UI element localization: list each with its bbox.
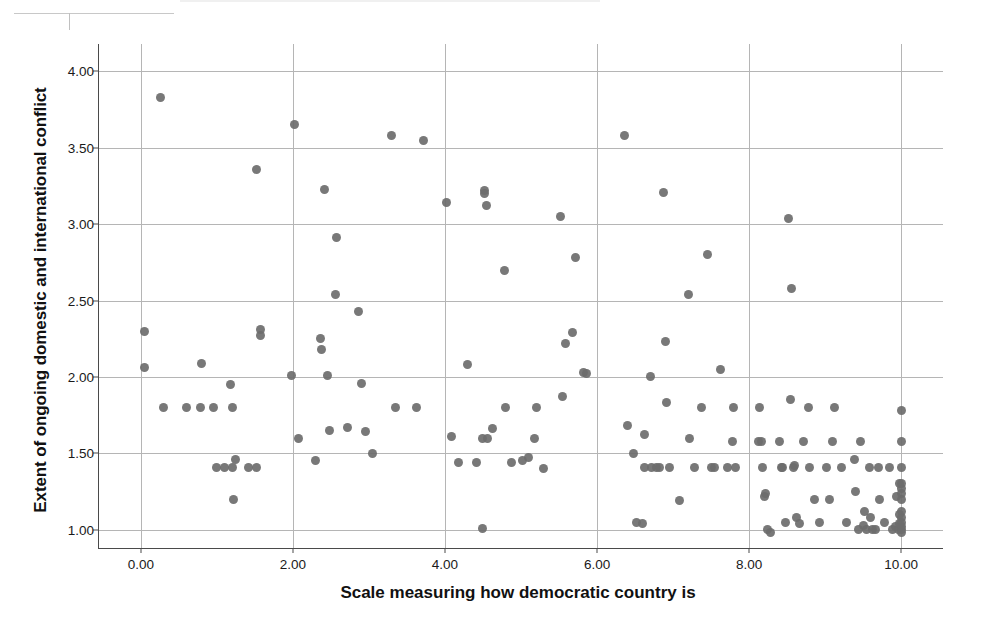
data-point: [209, 403, 218, 412]
x-axis-tick-mark: [749, 548, 750, 553]
data-point: [561, 339, 570, 348]
data-point: [556, 212, 565, 221]
data-point: [343, 423, 352, 432]
scan-artifact-vertical-line: [69, 13, 70, 30]
data-point: [761, 489, 770, 498]
data-point: [256, 331, 265, 340]
data-point: [662, 398, 671, 407]
data-point: [482, 201, 491, 210]
data-point: [880, 518, 889, 527]
gridline-horizontal: [99, 301, 943, 302]
scan-artifact-top-edge: [180, 0, 600, 2]
data-point: [875, 495, 884, 504]
data-point: [294, 434, 303, 443]
data-point: [447, 432, 456, 441]
data-point: [684, 290, 693, 299]
scan-artifact-horizontal-line: [14, 13, 174, 14]
gridline-vertical: [445, 44, 446, 548]
data-point: [354, 307, 363, 316]
gridline-vertical: [749, 44, 750, 548]
data-point: [897, 437, 906, 446]
data-point: [316, 334, 325, 343]
data-point: [805, 463, 814, 472]
data-point: [507, 458, 516, 467]
data-point: [895, 510, 904, 519]
x-axis-tick-mark: [597, 548, 598, 553]
x-axis-tick-label: 8.00: [736, 557, 762, 572]
data-point: [638, 519, 647, 528]
data-point: [685, 434, 694, 443]
data-point: [787, 284, 796, 293]
data-point: [775, 437, 784, 446]
data-point: [804, 403, 813, 412]
data-point: [795, 519, 804, 528]
data-point: [412, 403, 421, 412]
data-point: [646, 372, 655, 381]
data-point: [822, 463, 831, 472]
data-point: [655, 463, 664, 472]
data-point: [483, 434, 492, 443]
data-point: [690, 463, 699, 472]
x-axis-tick-label: 0.00: [128, 557, 154, 572]
data-point: [710, 463, 719, 472]
data-point: [140, 363, 149, 372]
gridline-horizontal: [99, 377, 943, 378]
data-point: [357, 379, 366, 388]
data-point: [368, 449, 377, 458]
x-axis-tick-mark: [140, 548, 141, 553]
data-point: [629, 449, 638, 458]
data-point: [842, 518, 851, 527]
gridline-horizontal: [99, 148, 943, 149]
data-point: [500, 266, 509, 275]
data-point: [874, 463, 883, 472]
gridline-horizontal: [99, 71, 943, 72]
data-point: [810, 495, 819, 504]
data-point: [571, 253, 580, 262]
data-point: [478, 524, 487, 533]
data-point: [892, 492, 901, 501]
data-point: [196, 403, 205, 412]
gridline-horizontal: [99, 453, 943, 454]
data-point: [228, 403, 237, 412]
data-point: [703, 250, 712, 259]
data-point: [837, 463, 846, 472]
data-point: [419, 136, 428, 145]
data-point: [442, 198, 451, 207]
data-point: [799, 437, 808, 446]
data-point: [731, 463, 740, 472]
data-point: [252, 165, 261, 174]
data-point: [871, 525, 880, 534]
data-point: [790, 461, 799, 470]
data-point: [317, 345, 326, 354]
data-point: [766, 528, 775, 537]
data-point: [885, 463, 894, 472]
data-point: [361, 427, 370, 436]
y-axis-tick-label: 2.00: [68, 369, 94, 384]
y-axis-tick-label: 4.00: [68, 64, 94, 79]
x-axis-tick-mark: [901, 548, 902, 553]
data-point: [815, 518, 824, 527]
data-point: [197, 359, 206, 368]
x-axis-tick-label: 10.00: [884, 557, 918, 572]
data-point: [252, 463, 261, 472]
x-axis-tick-label: 2.00: [280, 557, 306, 572]
data-point: [331, 290, 340, 299]
gridline-vertical: [597, 44, 598, 548]
data-point: [620, 131, 629, 140]
data-point: [755, 403, 764, 412]
data-point: [558, 392, 567, 401]
data-point: [568, 328, 577, 337]
data-point: [156, 93, 165, 102]
data-point: [640, 430, 649, 439]
y-axis-title: Extent of ongoing domestic and internati…: [24, 40, 58, 560]
gridline-vertical: [901, 44, 902, 548]
plot-area: 1.001.502.002.503.003.504.000.002.004.00…: [98, 44, 943, 549]
gridline-horizontal: [99, 530, 943, 531]
data-point: [757, 437, 766, 446]
data-point: [229, 495, 238, 504]
data-point: [758, 463, 767, 472]
y-axis-tick-label: 3.50: [68, 140, 94, 155]
data-point: [786, 395, 795, 404]
data-point: [501, 403, 510, 412]
data-point: [825, 495, 834, 504]
